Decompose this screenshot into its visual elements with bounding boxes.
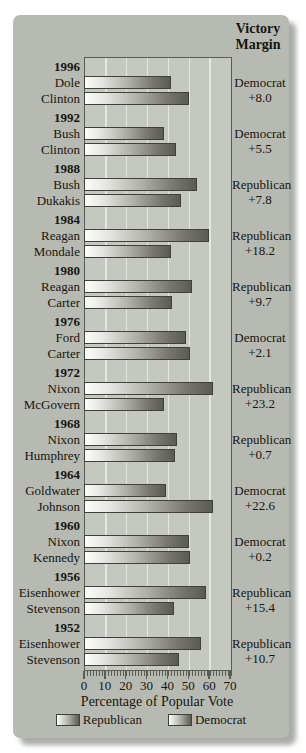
- year-label: 1968: [0, 416, 80, 431]
- candidate-label: Dole: [0, 75, 80, 90]
- margin-value-text: +22.6: [232, 498, 288, 513]
- candidate-label: Kennedy: [0, 550, 80, 565]
- vote-bar-democrat: [84, 347, 190, 360]
- legend: Republican Democrat: [13, 712, 289, 728]
- margin-value-text: +15.4: [232, 600, 288, 615]
- winner-party-text: Democrat: [232, 330, 288, 345]
- candidate-label: McGovern: [0, 397, 80, 412]
- candidate-label: Eisenhower: [0, 585, 80, 600]
- candidate-label: Stevenson: [0, 601, 80, 616]
- victory-margin-label: Democrat+5.5: [232, 126, 288, 156]
- x-axis-tick-label: 70: [215, 678, 245, 694]
- candidate-label: Bush: [0, 177, 80, 192]
- margin-value-text: +8.0: [232, 90, 288, 105]
- margin-value-text: +10.7: [232, 651, 288, 666]
- year-label: 1952: [0, 620, 80, 635]
- victory-margin-label: Republican+23.2: [232, 381, 288, 411]
- vote-bar-republican: [84, 433, 177, 446]
- legend-item-democrat: Democrat: [168, 712, 246, 728]
- margin-value-text: +0.2: [232, 549, 288, 564]
- vote-bar-democrat: [84, 653, 179, 666]
- year-label: 1992: [0, 110, 80, 125]
- victory-margin-header-line1: Victory: [226, 21, 290, 37]
- vote-bar-democrat: [84, 245, 171, 258]
- candidate-label: Eisenhower: [0, 636, 80, 651]
- year-label: 1956: [0, 569, 80, 584]
- victory-margin-header-line2: Margin: [226, 37, 290, 53]
- vote-bar-republican: [84, 484, 166, 497]
- vote-bar-democrat: [84, 92, 189, 105]
- victory-margin-label: Democrat+8.0: [232, 75, 288, 105]
- winner-party-text: Republican: [232, 177, 288, 192]
- winner-party-text: Democrat: [232, 534, 288, 549]
- year-label: 1980: [0, 263, 80, 278]
- victory-margin-label: Republican+10.7: [232, 636, 288, 666]
- winner-party-text: Republican: [232, 279, 288, 294]
- candidate-label: Dukakis: [0, 193, 80, 208]
- winner-party-text: Democrat: [232, 75, 288, 90]
- legend-label-democrat: Democrat: [195, 712, 246, 728]
- gridline: [189, 58, 191, 670]
- gridline: [209, 58, 211, 670]
- candidate-label: Nixon: [0, 432, 80, 447]
- candidate-label: Bush: [0, 126, 80, 141]
- vote-bar-democrat: [84, 194, 181, 207]
- vote-bar-democrat: [84, 398, 164, 411]
- vote-bar-republican: [84, 127, 164, 140]
- democrat-swatch-icon: [168, 714, 192, 726]
- republican-swatch-icon: [56, 714, 80, 726]
- winner-party-text: Republican: [232, 432, 288, 447]
- candidate-label: Stevenson: [0, 652, 80, 667]
- victory-margin-label: Republican+18.2: [232, 228, 288, 258]
- vote-bar-democrat: [84, 602, 174, 615]
- margin-value-text: +9.7: [232, 294, 288, 309]
- year-label: 1964: [0, 467, 80, 482]
- vote-bar-republican: [84, 382, 213, 395]
- year-label: 1976: [0, 314, 80, 329]
- x-axis-title: Percentage of Popular Vote: [64, 694, 250, 710]
- candidate-label: Reagan: [0, 279, 80, 294]
- candidate-label: Nixon: [0, 534, 80, 549]
- victory-margin-label: Republican+0.7: [232, 432, 288, 462]
- vote-bar-republican: [84, 229, 209, 242]
- margin-value-text: +23.2: [232, 396, 288, 411]
- vote-bar-republican: [84, 280, 192, 293]
- vote-bar-democrat: [84, 500, 213, 513]
- vote-bar-republican: [84, 178, 197, 191]
- victory-margin-label: Republican+9.7: [232, 279, 288, 309]
- vote-bar-republican: [84, 76, 171, 89]
- vote-bar-democrat: [84, 143, 176, 156]
- year-label: 1996: [0, 59, 80, 74]
- candidate-label: Ford: [0, 330, 80, 345]
- candidate-label: Goldwater: [0, 483, 80, 498]
- year-label: 1960: [0, 518, 80, 533]
- candidate-label: Carter: [0, 295, 80, 310]
- winner-party-text: Republican: [232, 228, 288, 243]
- victory-margin-label: Democrat+0.2: [232, 534, 288, 564]
- candidate-label: Humphrey: [0, 448, 80, 463]
- vote-bar-republican: [84, 637, 201, 650]
- candidate-label: Nixon: [0, 381, 80, 396]
- winner-party-text: Republican: [232, 381, 288, 396]
- victory-margin-label: Republican+15.4: [232, 585, 288, 615]
- year-label: 1984: [0, 212, 80, 227]
- legend-item-republican: Republican: [56, 712, 142, 728]
- winner-party-text: Democrat: [232, 126, 288, 141]
- candidate-label: Clinton: [0, 91, 80, 106]
- candidate-label: Johnson: [0, 499, 80, 514]
- candidate-label: Reagan: [0, 228, 80, 243]
- winner-party-text: Republican: [232, 585, 288, 600]
- margin-value-text: +5.5: [232, 141, 288, 156]
- figure-canvas: { "header": { "line1": "Victory", "line2…: [0, 0, 306, 753]
- margin-value-text: +0.7: [232, 447, 288, 462]
- vote-bar-democrat: [84, 296, 172, 309]
- year-label: 1972: [0, 365, 80, 380]
- winner-party-text: Democrat: [232, 483, 288, 498]
- victory-margin-header: Victory Margin: [226, 21, 290, 53]
- vote-bar-republican: [84, 535, 189, 548]
- legend-label-republican: Republican: [83, 712, 142, 728]
- vote-bar-democrat: [84, 551, 190, 564]
- victory-margin-label: Democrat+2.1: [232, 330, 288, 360]
- vote-bar-republican: [84, 331, 186, 344]
- candidate-label: Carter: [0, 346, 80, 361]
